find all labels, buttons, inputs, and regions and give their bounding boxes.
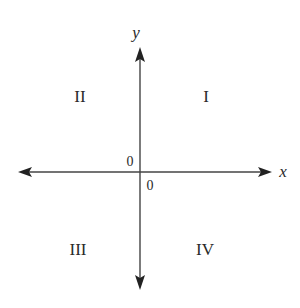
quadrant-label-1: I <box>203 87 209 106</box>
y-axis-label: y <box>130 23 140 42</box>
x-axis-label: x <box>278 162 287 181</box>
quadrant-label-3: III <box>70 240 87 259</box>
quadrant-label-2: II <box>74 87 86 106</box>
coordinate-plane: y x 0 0 II I III IV <box>0 0 300 308</box>
origin-label-x: 0 <box>147 178 154 193</box>
origin-label-y: 0 <box>127 154 134 169</box>
quadrant-label-4: IV <box>196 240 215 259</box>
